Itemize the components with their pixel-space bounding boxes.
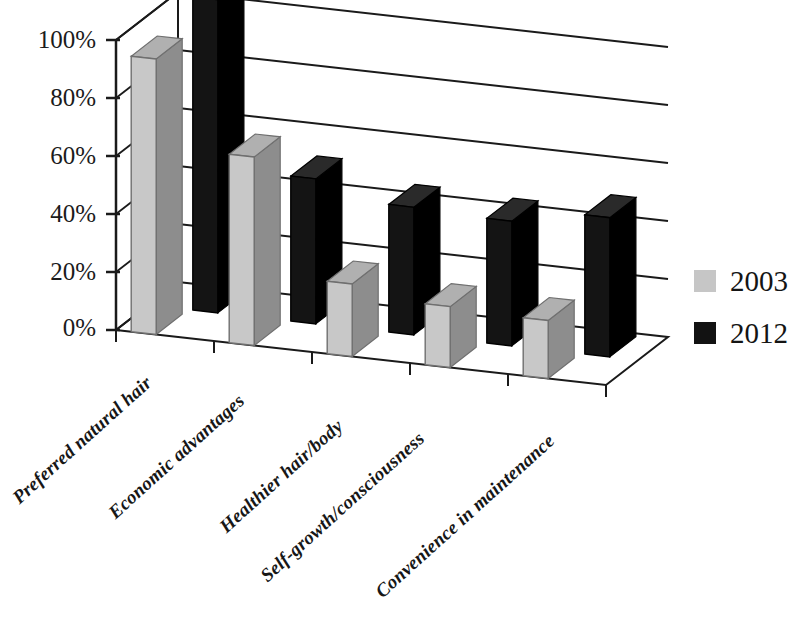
legend-item-2003: 2003 [694, 255, 788, 307]
bar-chart: 100% 80% 60% 40% 20% 0% Preferred natura… [0, 0, 809, 621]
legend-label: 2003 [730, 267, 788, 296]
legend-label: 2012 [730, 319, 788, 348]
legend-swatch-icon [694, 322, 716, 344]
plot-area [0, 0, 809, 621]
legend-item-2012: 2012 [694, 307, 788, 359]
legend: 2003 2012 [694, 255, 788, 359]
legend-swatch-icon [694, 270, 716, 292]
